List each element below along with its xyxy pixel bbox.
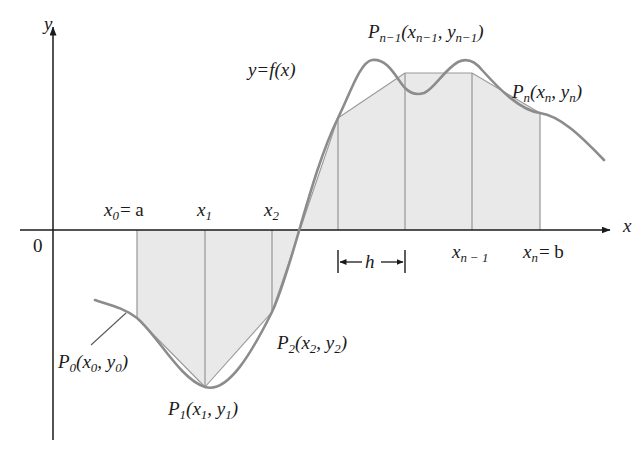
pn-1-coords-open: (x	[401, 21, 416, 42]
pn-1-coords-x-index: n−1	[416, 30, 438, 45]
point-label-pn: Pn(xn, yn)	[512, 82, 582, 105]
point-label-p0: P0(x0, y0)	[58, 352, 128, 375]
tick-label-x1: x1	[197, 200, 212, 223]
p0-coords-open: (x	[76, 351, 91, 372]
tick-label-xn-1: xn − 1	[452, 242, 489, 265]
p0-leader-line	[91, 313, 126, 345]
tick-xn-equals-b: = b	[538, 241, 565, 262]
p0-coords-close: )	[122, 351, 128, 372]
tick-x0-equals-a: = a	[119, 199, 145, 220]
p2-coords-open: (x	[295, 332, 310, 353]
p1-coords-close: )	[232, 398, 238, 419]
p1-letter: P	[168, 398, 180, 419]
pn-1-index: n−1	[380, 30, 402, 45]
trapezoidal-rule-figure: y x 0 y=f(x) x0= a x1 x2 xn − 1 xn= b h …	[0, 0, 644, 457]
pn-1-coords-y-index: n−1	[456, 30, 478, 45]
point-label-pn-1: Pn−1(xn−1, yn−1)	[368, 22, 484, 45]
p2-letter: P	[277, 332, 289, 353]
pn-coords-close: )	[576, 81, 582, 102]
pn-coords-mid: , y	[551, 81, 569, 102]
p2-coords-mid: , y	[316, 332, 334, 353]
p2-coords-close: )	[341, 332, 347, 353]
p1-coords-mid: , y	[207, 398, 225, 419]
figure-canvas	[0, 0, 644, 457]
tick-x1-index: 1	[205, 208, 211, 223]
pn-letter: P	[512, 81, 524, 102]
x-axis-label: x	[623, 216, 631, 235]
pn-1-coords-close: )	[477, 21, 483, 42]
pn-1-letter: P	[368, 21, 380, 42]
h-width-label: h	[365, 252, 375, 271]
y-axis-label: y	[44, 14, 52, 33]
p0-coords-mid: , y	[97, 351, 115, 372]
tick-label-xn: xn= b	[523, 242, 565, 265]
point-label-p1: P1(x1, y1)	[168, 399, 238, 422]
tick-xn-1-index: n − 1	[460, 250, 488, 265]
curve-equation-arg: (x)	[274, 59, 295, 80]
tick-x0-index: 0	[112, 208, 118, 223]
p0-letter: P	[58, 351, 70, 372]
pn-coords-open: (x	[530, 81, 545, 102]
origin-label: 0	[33, 236, 43, 255]
p1-coords-open: (x	[186, 398, 201, 419]
tick-label-x2: x2	[264, 200, 279, 223]
curve-equation-eq: =	[256, 59, 269, 80]
curve-equation-label: y=f(x)	[248, 60, 296, 79]
tick-label-x0: x0= a	[104, 200, 145, 223]
tick-x2-index: 2	[272, 208, 278, 223]
pn-1-coords-mid: , y	[438, 21, 456, 42]
point-label-p2: P2(x2, y2)	[277, 333, 347, 356]
tick-xn-index: n	[531, 250, 537, 265]
